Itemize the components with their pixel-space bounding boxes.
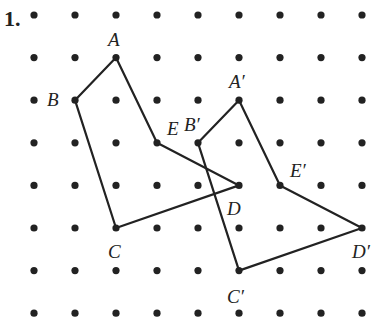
- grid-dot: [30, 11, 37, 18]
- grid-dot: [112, 97, 119, 104]
- grid-dot: [235, 310, 242, 317]
- grid-dot: [276, 97, 283, 104]
- grid-dot: [30, 224, 37, 231]
- grid-dot: [276, 139, 283, 146]
- vertex-label: A′: [227, 71, 246, 92]
- grid-dot: [358, 182, 365, 189]
- grid-dot: [30, 139, 37, 146]
- grid-dot: [276, 310, 283, 317]
- grid-dot: [71, 182, 78, 189]
- vertex-label: E: [166, 118, 179, 139]
- grid-dot: [358, 139, 365, 146]
- grid-dot: [30, 54, 37, 61]
- grid-dot: [276, 267, 283, 274]
- vertex-label: D: [226, 198, 241, 219]
- vertex-label: C′: [227, 286, 245, 307]
- grid-dot: [30, 182, 37, 189]
- grid-dot: [194, 11, 201, 18]
- grid-dot: [276, 224, 283, 231]
- grid-dot: [153, 11, 160, 18]
- grid-dot: [194, 97, 201, 104]
- vertex-label: A: [106, 29, 120, 50]
- grid-dot: [112, 267, 119, 274]
- polygon-original: [75, 58, 239, 228]
- grid-dot: [317, 54, 324, 61]
- grid-dot: [153, 310, 160, 317]
- dot-grid-figure: 1. AEDCBA′E′D′C′B′: [0, 0, 379, 323]
- grid-dot: [235, 224, 242, 231]
- grid-dot: [112, 139, 119, 146]
- polygons: [75, 58, 362, 271]
- grid-dot: [358, 310, 365, 317]
- grid-dot: [317, 224, 324, 231]
- grid-dot: [317, 97, 324, 104]
- grid-dot: [30, 97, 37, 104]
- grid-dot: [153, 267, 160, 274]
- vertex-label: E′: [289, 160, 307, 181]
- grid-dot: [358, 54, 365, 61]
- grid-dot: [358, 97, 365, 104]
- grid-dot: [194, 310, 201, 317]
- grid-dot: [112, 11, 119, 18]
- grid-dot: [194, 224, 201, 231]
- grid-dot: [112, 310, 119, 317]
- grid-dot: [235, 11, 242, 18]
- grid-dot: [71, 267, 78, 274]
- grid-dot: [276, 54, 283, 61]
- vertex-label: B: [47, 89, 59, 110]
- grid-dot: [112, 182, 119, 189]
- grid-dot: [153, 97, 160, 104]
- grid-dot: [194, 182, 201, 189]
- grid-dot: [71, 224, 78, 231]
- grid-dot: [71, 310, 78, 317]
- grid-dot: [153, 182, 160, 189]
- vertex-label: C: [108, 241, 121, 262]
- grid-dot: [317, 310, 324, 317]
- grid-dot: [153, 224, 160, 231]
- grid-dot: [235, 54, 242, 61]
- grid-dot: [30, 267, 37, 274]
- grid-dot: [71, 11, 78, 18]
- vertex-label: B′: [184, 114, 201, 135]
- grid-dot: [276, 11, 283, 18]
- vertex-label: D′: [351, 241, 371, 262]
- grid-dot: [358, 267, 365, 274]
- grid-dot: [71, 139, 78, 146]
- polygon-image: [198, 100, 362, 270]
- grid-dot: [235, 139, 242, 146]
- grid-dot: [71, 54, 78, 61]
- grid-dot: [194, 54, 201, 61]
- grid-dot: [358, 11, 365, 18]
- grid-dot: [194, 267, 201, 274]
- grid-dot: [317, 267, 324, 274]
- grid-dot: [30, 310, 37, 317]
- grid-dot: [317, 11, 324, 18]
- grid-dot: [317, 139, 324, 146]
- grid-dot: [153, 54, 160, 61]
- problem-number: 1.: [4, 6, 21, 31]
- grid-dot: [317, 182, 324, 189]
